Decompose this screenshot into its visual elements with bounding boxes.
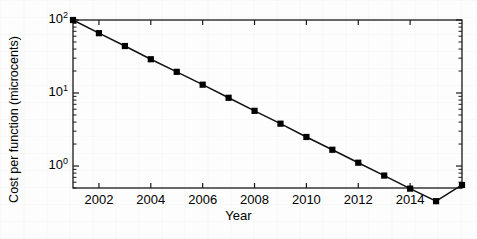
data-point — [122, 43, 128, 49]
x-tick-label: 2004 — [133, 192, 169, 207]
data-line — [73, 20, 462, 201]
data-point — [407, 186, 413, 192]
axes-spines — [73, 20, 462, 188]
y-axis-label: Cost per function (microcents) — [7, 36, 23, 203]
x-axis-label: Year — [0, 208, 477, 223]
plot-frame — [73, 20, 462, 188]
x-tick-label: 2006 — [185, 192, 221, 207]
data-point — [381, 172, 387, 178]
data-point — [148, 56, 154, 62]
data-point — [200, 82, 206, 88]
data-point — [459, 182, 465, 188]
data-point — [433, 198, 439, 204]
y-tick-label: 100 — [28, 157, 68, 172]
data-point — [303, 134, 309, 140]
x-tick-label: 2010 — [288, 192, 324, 207]
data-point — [355, 160, 361, 166]
x-tick-label: 2014 — [392, 192, 428, 207]
minor-tick-marks — [73, 23, 462, 188]
data-point — [96, 30, 102, 36]
y-axis-label-wrapper: Cost per function (microcents) — [0, 0, 30, 239]
data-point — [226, 95, 232, 101]
x-tick-label: 2008 — [237, 192, 273, 207]
data-point — [277, 121, 283, 127]
y-tick-label: 101 — [28, 84, 68, 99]
y-tick-label: 102 — [28, 11, 68, 26]
data-point — [329, 147, 335, 153]
data-point — [70, 17, 76, 23]
x-tick-label: 2012 — [340, 192, 376, 207]
data-point — [251, 108, 257, 114]
data-markers — [70, 17, 465, 204]
x-tick-label: 2002 — [81, 192, 117, 207]
data-point — [174, 69, 180, 75]
chart-figure: 100101102 2002200420062008201020122014 C… — [0, 0, 477, 239]
major-tick-marks — [73, 20, 462, 188]
